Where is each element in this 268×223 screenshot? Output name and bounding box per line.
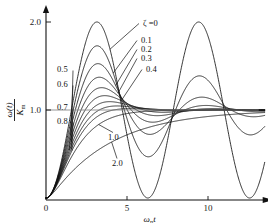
y-axis-arrow (43, 5, 49, 13)
leader-line-zeta-2 (112, 142, 117, 158)
curve-label-zeta-0: ζ =0 (143, 18, 158, 28)
curve-label-zeta-0-8: 0.8 (57, 116, 68, 126)
response-curve-zeta-2 (46, 113, 265, 198)
leader-line-zeta-0-3 (118, 59, 137, 94)
leader-line-zeta-0-1 (113, 41, 137, 74)
y-axis-title-denominator: Km (15, 104, 26, 116)
curve-label-zeta-2: 2.0 (112, 158, 123, 168)
curve-label-zeta-0-5: 0.5 (57, 64, 68, 74)
response-curve-zeta-0-4 (46, 88, 265, 198)
y-axis-title-numerator: ω(t) (4, 103, 14, 118)
leader-line-zeta-0 (110, 24, 139, 50)
curve-label-zeta-1: 1.0 (108, 132, 119, 142)
chart-figure: 05101.02.0ζ =00.10.20.30.40.50.60.70.81.… (0, 0, 268, 223)
x-tick-label-0: 0 (44, 203, 49, 213)
curve-label-zeta-0-3: 0.3 (141, 53, 152, 63)
x-tick-label-5: 5 (125, 203, 130, 213)
x-tick-label-10: 10 (204, 203, 214, 213)
second-order-step-response-chart: 05101.02.0ζ =00.10.20.30.40.50.60.70.81.… (0, 0, 268, 223)
y-tick-label-2.0: 2.0 (30, 17, 42, 27)
leader-line-zeta-0-4 (122, 70, 142, 100)
x-axis-arrow (263, 197, 268, 203)
response-curve-zeta-0-2 (46, 64, 265, 198)
curve-label-zeta-0-7: 0.7 (57, 102, 68, 112)
y-axis-title: ω(t)Km (4, 99, 27, 121)
curve-label-zeta-0-6: 0.6 (57, 79, 68, 89)
y-tick-label-1.0: 1.0 (30, 105, 42, 115)
curve-label-zeta-0-4: 0.4 (146, 64, 157, 74)
x-axis-title: ωnt (144, 214, 157, 223)
